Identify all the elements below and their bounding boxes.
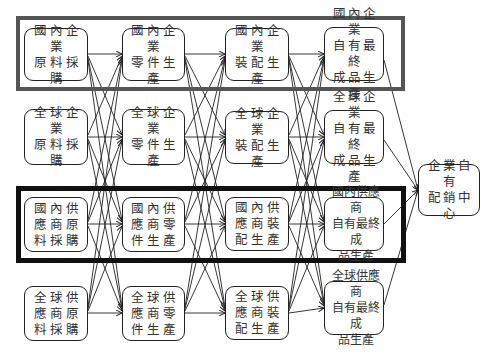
node-enterprise-distribution-center: 企業自有 配銷中心 [418, 164, 480, 216]
node-global-enterprise-assembly: 全球企業 裝配生產 [225, 111, 289, 164]
node-domestic-supplier-assembly: 國內供 應商裝 配生產 [225, 197, 289, 251]
node-global-enterprise-raw-material: 全球企業 原料採購 [24, 109, 88, 165]
node-global-enterprise-parts: 全球企業 零件生產 [122, 109, 185, 165]
node-global-enterprise-final-product: 全球企業 自有最終 成品生產 [324, 110, 384, 164]
node-global-supplier-raw-material: 全球供 應商原 料採購 [24, 286, 88, 341]
node-domestic-enterprise-raw-material: 國內企業 原料採購 [24, 28, 88, 81]
node-domestic-supplier-parts: 國內供 應商零 件生產 [122, 197, 185, 252]
supply-chain-diagram: 國內企業 原料採購 全球企業 原料採購 國內供 應商原 料採購 全球供 應商原 … [0, 0, 495, 360]
node-domestic-enterprise-final-product: 國內企業 自有最終 成品生產 [324, 27, 384, 81]
node-domestic-enterprise-parts: 國內企業 零件生產 [122, 28, 185, 81]
node-domestic-supplier-final-product: 國內供應商 自有最終成 品生產 [324, 197, 384, 251]
node-global-supplier-assembly: 全球供 應商裝 配生產 [225, 286, 289, 340]
node-global-supplier-final-product: 全球供應商 自有最終成 品生產 [324, 281, 384, 335]
node-domestic-enterprise-assembly: 國內企業 裝配生產 [225, 28, 289, 81]
node-domestic-supplier-raw-material: 國內供 應商原 料採購 [24, 197, 88, 252]
node-global-supplier-parts: 全球供 應商零 件生產 [122, 286, 185, 341]
